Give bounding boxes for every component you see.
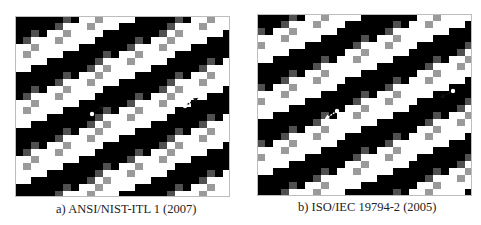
minutiae-grid-b: [257, 14, 472, 196]
minutia-point-icon: [450, 88, 456, 94]
minutia-point-icon: [335, 109, 339, 113]
minutia-point-icon: [90, 112, 94, 116]
panel-a-ansi-nist: [15, 16, 230, 197]
minutia-point-icon: [183, 104, 187, 108]
caption-a: a) ANSI/NIST-ITL 1 (2007): [56, 202, 196, 217]
minutiae-grid-a: [15, 16, 230, 197]
caption-b: b) ISO/IEC 19794-2 (2005): [298, 200, 437, 215]
panel-b-iso-iec: [257, 14, 472, 196]
